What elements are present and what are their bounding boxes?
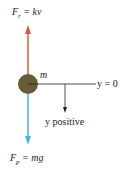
mass-label: m (40, 69, 47, 80)
force-equation: = kv (21, 6, 42, 17)
origin-label: y = 0 (97, 78, 118, 89)
gravity-force-label: Fp = mg (10, 152, 44, 166)
resistance-arrowhead-icon (25, 25, 31, 34)
force-equation: = mg (20, 152, 44, 163)
positive-arrowhead-icon (63, 107, 67, 113)
resistance-force-label: Fr = kv (12, 6, 41, 20)
direction-label: y positive (45, 116, 84, 127)
gravity-arrowhead-icon (25, 136, 31, 145)
